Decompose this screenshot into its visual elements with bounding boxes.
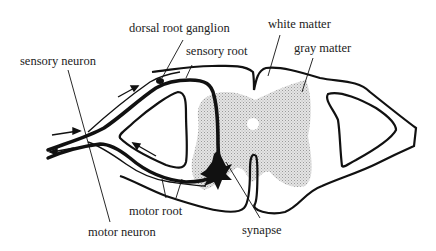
- label-motor-root: motor root: [129, 204, 183, 218]
- label-sensory-neuron: sensory neuron: [20, 54, 97, 68]
- spinal-cord-diagram: dorsal root ganglion sensory root white …: [0, 0, 436, 251]
- label-synapse: synapse: [242, 223, 282, 237]
- dorsal-root-ganglion: [156, 78, 164, 84]
- arrow-icon-sensory-in: [52, 128, 80, 135]
- central-canal: [247, 118, 259, 130]
- label-motor-neuron: motor neuron: [88, 225, 156, 239]
- label-white-matter: white matter: [268, 17, 332, 31]
- nerve-outline-lower: [88, 142, 206, 186]
- label-dorsal-root-ganglion: dorsal root ganglion: [129, 21, 230, 35]
- label-gray-matter: gray matter: [294, 41, 352, 55]
- arrow-icon-sensory-top: [118, 86, 138, 97]
- leader-white-matter: [268, 35, 280, 76]
- motor-neuron-path: [48, 144, 214, 182]
- label-sensory-root: sensory root: [186, 44, 248, 58]
